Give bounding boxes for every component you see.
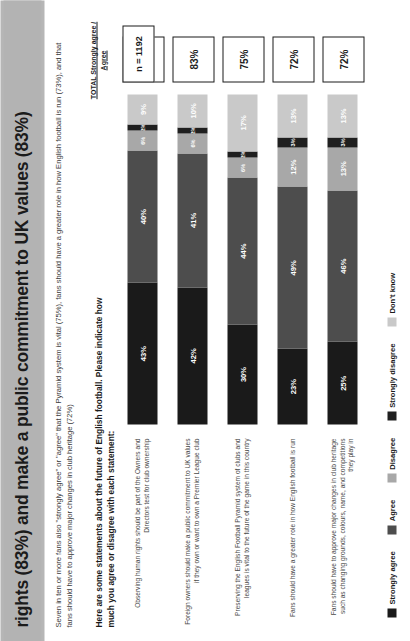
- total-column-header: TOTAL Strongly agree / Agree: [88, 14, 107, 106]
- chart-row: Preserving the English Football Pyramid …: [220, 14, 264, 627]
- subtitle-text: Seven in ten or more fans also "strongly…: [52, 27, 74, 627]
- legend-item: Disagree: [387, 437, 396, 482]
- legend-label: Strongly agree: [387, 551, 396, 604]
- bar-segment: 3%: [327, 137, 357, 147]
- bar-segment: 43%: [127, 282, 157, 424]
- stacked-bar: 25%46%13%3%13%: [327, 94, 357, 424]
- bar-segment: 13%: [277, 94, 307, 137]
- chart-legend: Strongly agreeAgreeDisagreeStrongly disa…: [383, 17, 399, 617]
- legend-swatch-icon: [387, 608, 396, 617]
- legend-item: Strongly disagree: [387, 343, 396, 420]
- category-label: Fans should have a greater role in how E…: [270, 431, 314, 627]
- bar-segment: 2%: [177, 127, 207, 134]
- bar-segment: 10%: [177, 94, 207, 127]
- legend-swatch-icon: [387, 473, 396, 482]
- bar-segment: 2%: [227, 151, 257, 158]
- bar-segment: 6%: [127, 130, 157, 150]
- bar-segment: 2%: [127, 124, 157, 131]
- chart-row: Fans should have to approve major change…: [320, 14, 364, 627]
- category-label: Observing human rights should be part of…: [120, 431, 164, 627]
- sample-size-box: n = 1192: [122, 25, 154, 82]
- bar-segment: 41%: [177, 153, 207, 287]
- stacked-bar: 42%41%6%2%10%: [177, 94, 207, 424]
- bar-segment: 9%: [127, 94, 157, 124]
- bar-segment: 44%: [227, 177, 257, 324]
- bar-segment: 13%: [327, 94, 357, 137]
- bar-segment: 23%: [277, 348, 307, 424]
- title-banner: rights (83%) and make a public commitmen…: [0, 0, 44, 641]
- bar-segment: 6%: [227, 157, 257, 177]
- total-value-box: 72%: [322, 36, 364, 82]
- category-label: Preserving the English Football Pyramid …: [220, 431, 264, 627]
- bar-segment: 25%: [327, 342, 357, 425]
- bar-segment: 17%: [227, 94, 257, 151]
- stacked-bar-chart: Observing human rights should be part of…: [120, 14, 370, 627]
- legend-swatch-icon: [387, 411, 396, 420]
- bar-segment: 12%: [277, 147, 307, 187]
- legend-label: Agree: [387, 499, 396, 521]
- legend-label: Strongly disagree: [387, 343, 396, 407]
- total-value-box: 83%: [172, 36, 214, 82]
- bar-segment: 46%: [327, 190, 357, 342]
- question-stem: Here are some statements about the futur…: [92, 297, 116, 627]
- slide-frame: rights (83%) and make a public commitmen…: [0, 0, 410, 641]
- bar-segment: 3%: [277, 137, 307, 147]
- bar-segment: 49%: [277, 186, 307, 348]
- legend-item: Don't know: [387, 272, 396, 326]
- stacked-bar: 43%40%6%2%9%: [127, 94, 157, 424]
- legend-swatch-icon: [387, 525, 396, 534]
- bar-segment: 13%: [327, 147, 357, 190]
- bar-segment: 30%: [227, 324, 257, 424]
- page-title: rights (83%) and make a public commitmen…: [9, 12, 33, 627]
- total-value-box: 75%: [222, 36, 264, 82]
- category-label: Fans should have to approve major change…: [320, 431, 364, 627]
- legend-label: Don't know: [387, 272, 396, 313]
- category-label: Foreign owners should make a public comm…: [170, 431, 214, 627]
- stacked-bar: 23%49%12%3%13%: [277, 94, 307, 424]
- legend-swatch-icon: [387, 317, 396, 326]
- chart-row: Fans should have a greater role in how E…: [270, 14, 314, 627]
- stacked-bar: 30%44%6%2%17%: [227, 94, 257, 424]
- legend-item: Strongly agree: [387, 551, 396, 617]
- bar-segment: 40%: [127, 150, 157, 282]
- total-value-box: 72%: [272, 36, 314, 82]
- chart-row: Foreign owners should make a public comm…: [170, 14, 214, 627]
- legend-label: Disagree: [387, 437, 396, 469]
- slide-canvas: rights (83%) and make a public commitmen…: [0, 0, 410, 641]
- bar-segment: 6%: [177, 133, 207, 153]
- chart-row: Observing human rights should be part of…: [120, 14, 164, 627]
- legend-item: Agree: [387, 499, 396, 534]
- bar-segment: 42%: [177, 287, 207, 424]
